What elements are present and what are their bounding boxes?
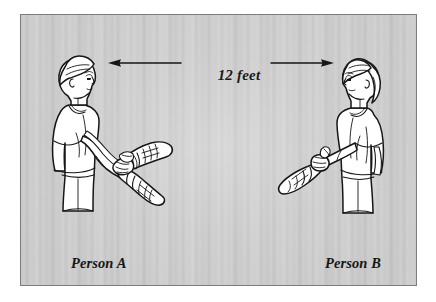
dimension-label: 12 feet — [196, 67, 282, 84]
caption-person-a: Person A holding two clubs. — [71, 221, 132, 286]
caption-person-a-line1: Person A — [71, 255, 132, 272]
caption-person-b: Person B at the ready, with one. — [325, 221, 399, 286]
illustration-panel: .ln { fill:none; stroke:#161616; stroke-… — [20, 14, 417, 286]
caption-person-b-line1: Person B — [325, 255, 399, 272]
person-a-figure — [53, 56, 173, 211]
dimension-arrow — [108, 59, 334, 67]
person-b-figure — [279, 59, 384, 213]
illustration-figure: .ln { fill:none; stroke:#161616; stroke-… — [0, 0, 436, 302]
